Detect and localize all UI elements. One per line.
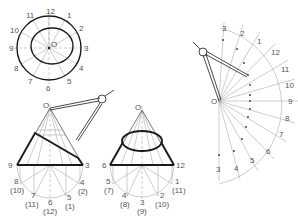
left-label-1: (1) xyxy=(65,202,75,211)
left-label-7: 7 xyxy=(31,191,36,200)
clock-label-3: 3 xyxy=(84,44,89,53)
clock-label-1: 1 xyxy=(67,11,72,20)
arc-label-3-top: 3 xyxy=(222,24,227,33)
clock-label-9: 9 xyxy=(9,44,14,53)
clock-label-4: 4 xyxy=(79,64,84,73)
arc-label-4: 4 xyxy=(234,164,239,173)
cone-development-diagram: O 12 1 2 3 4 5 6 7 8 9 10 11 xyxy=(0,0,298,221)
top-center-label: O xyxy=(51,40,57,49)
left-label-8: 8 xyxy=(14,177,19,186)
left-label-4: 4 xyxy=(80,178,85,187)
right-base-left-label: 6 xyxy=(102,161,107,170)
right-label-11: (11) xyxy=(172,186,186,195)
arc-label-12: 12 xyxy=(271,48,280,57)
arc-label-11: 11 xyxy=(281,65,290,74)
left-apex-label: O xyxy=(43,101,49,110)
development-fan: O 3 2 1 12 11 10 9 8 7 6 5 4 3 xyxy=(193,22,298,184)
clock-label-6: 6 xyxy=(46,84,51,93)
right-base-right-label: 12 xyxy=(176,161,185,170)
arc-label-8: 8 xyxy=(285,114,290,123)
right-label-2: 2 xyxy=(160,191,165,200)
right-label-9: (9) xyxy=(137,207,147,216)
left-label-12: (12) xyxy=(43,207,58,216)
clock-label-10: 10 xyxy=(10,26,19,35)
arc-label-5: 5 xyxy=(250,156,255,165)
left-label-6: 6 xyxy=(48,198,53,207)
right-label-10: (10) xyxy=(155,200,170,209)
right-apex-label: O xyxy=(135,103,141,112)
right-label-4: 4 xyxy=(122,191,127,200)
left-label-10: (10) xyxy=(10,186,25,195)
top-view: O 12 1 2 3 4 5 6 7 8 9 10 11 xyxy=(9,7,89,93)
right-cone: O 6 12 5 (7) 4 (8) 3 (9) 2 (10) 1 (11) xyxy=(102,103,186,216)
arc-label-9: 9 xyxy=(288,97,293,106)
arc-label-3-bottom: 3 xyxy=(216,165,221,174)
clock-label-8: 8 xyxy=(14,64,19,73)
right-label-3: 3 xyxy=(140,198,145,207)
development-center-label: O xyxy=(211,97,217,106)
left-label-11: (11) xyxy=(25,200,39,209)
clock-label-12: 12 xyxy=(46,7,55,16)
clock-label-11: 11 xyxy=(26,11,35,20)
right-label-8: (8) xyxy=(120,200,130,209)
clock-label-5: 5 xyxy=(67,77,72,86)
compass-icon xyxy=(193,42,248,101)
left-label-5: 5 xyxy=(67,193,72,202)
left-cone: O 9 3 8 (10) 7 (11) 6 (12) 5 (1) 4 (2) xyxy=(8,90,114,216)
right-label-7: (7) xyxy=(104,186,114,195)
left-base-left-label: 9 xyxy=(8,161,13,170)
arc-label-7: 7 xyxy=(279,130,284,139)
clock-label-7: 7 xyxy=(28,77,33,86)
arc-label-1: 1 xyxy=(257,37,262,46)
left-label-2: (2) xyxy=(78,187,88,196)
right-label-5: 5 xyxy=(106,177,111,186)
clock-label-2: 2 xyxy=(79,24,84,33)
arc-label-2: 2 xyxy=(240,29,245,38)
arc-label-6: 6 xyxy=(266,147,271,156)
right-label-1: 1 xyxy=(175,177,180,186)
arc-label-10: 10 xyxy=(285,81,294,90)
left-base-right-label: 3 xyxy=(85,161,90,170)
